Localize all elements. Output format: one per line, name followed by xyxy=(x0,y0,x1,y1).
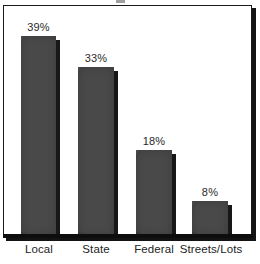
cropped-title-remnant xyxy=(116,0,125,3)
bar-rect xyxy=(78,67,114,235)
bar-value-label: 33% xyxy=(85,52,108,64)
x-axis-baseline xyxy=(3,234,253,238)
plot-area: 39%33%18%8% xyxy=(4,6,251,235)
bar-rect xyxy=(136,150,172,235)
bar-federal: 18% xyxy=(136,150,172,235)
bar-rect xyxy=(21,36,56,235)
bar-rect xyxy=(192,201,228,235)
bar-value-label: 8% xyxy=(202,186,218,198)
bar-value-label: 39% xyxy=(27,21,50,33)
frame-shadow-right xyxy=(252,8,256,240)
category-label-streets-lots: Streets/Lots xyxy=(180,243,243,255)
category-label-local: Local xyxy=(25,243,53,255)
bar-streets-lots: 8% xyxy=(192,201,228,235)
bar-local: 39% xyxy=(21,36,56,235)
bar-value-label: 18% xyxy=(143,135,166,147)
category-label-state: State xyxy=(82,243,109,255)
category-axis: LocalStateFederalStreets/Lots xyxy=(0,243,260,263)
bar-chart-figure: 39%33%18%8% LocalStateFederalStreets/Lot… xyxy=(0,0,260,264)
category-label-federal: Federal xyxy=(134,243,174,255)
bar-state: 33% xyxy=(78,67,114,235)
